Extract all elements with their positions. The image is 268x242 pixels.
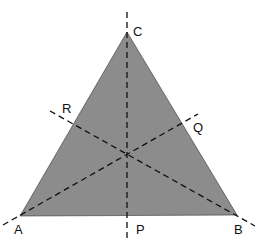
label-a: A (14, 222, 23, 237)
triangle-diagram: CRQAPB (0, 0, 268, 242)
label-p: P (136, 222, 145, 237)
label-q: Q (193, 120, 203, 135)
label-r: R (62, 101, 71, 116)
triangle-abc (20, 32, 237, 216)
label-c: C (133, 24, 142, 39)
label-b: B (234, 222, 243, 237)
